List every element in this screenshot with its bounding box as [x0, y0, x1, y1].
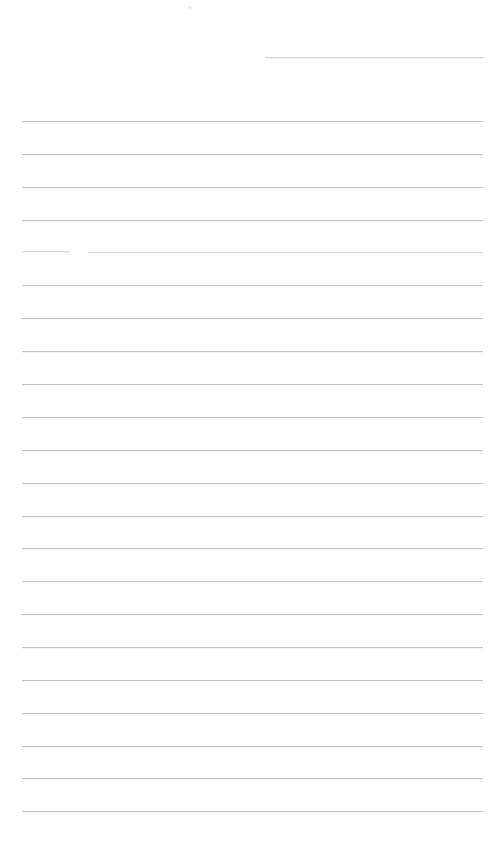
- ruled-line: [22, 351, 483, 352]
- ruled-line: [22, 384, 483, 385]
- ruled-line: [22, 581, 483, 582]
- ruled-line: [22, 778, 483, 779]
- scanned-page: [0, 0, 501, 842]
- ruled-line: [22, 417, 483, 418]
- ruled-line: [22, 647, 483, 648]
- ruled-line: [22, 713, 483, 714]
- ruled-line: [22, 516, 483, 517]
- ruled-line: [22, 450, 483, 451]
- ruled-line: [22, 121, 483, 122]
- ruled-line: [22, 811, 483, 812]
- ruled-line: [22, 614, 483, 615]
- ruled-line: [22, 680, 483, 681]
- ruled-line: [22, 285, 483, 286]
- ruled-line: [88, 252, 483, 253]
- ruled-line: [22, 187, 483, 188]
- scan-speck: [188, 6, 192, 9]
- ruled-line: [22, 746, 483, 747]
- ruled-line: [265, 57, 483, 58]
- ruled-line: [22, 548, 483, 549]
- ruled-line: [22, 251, 70, 252]
- ruled-line: [22, 154, 483, 155]
- ruled-line: [22, 483, 483, 484]
- ruled-line: [22, 318, 483, 319]
- ruled-line: [22, 220, 483, 221]
- paper-surface: [0, 0, 501, 842]
